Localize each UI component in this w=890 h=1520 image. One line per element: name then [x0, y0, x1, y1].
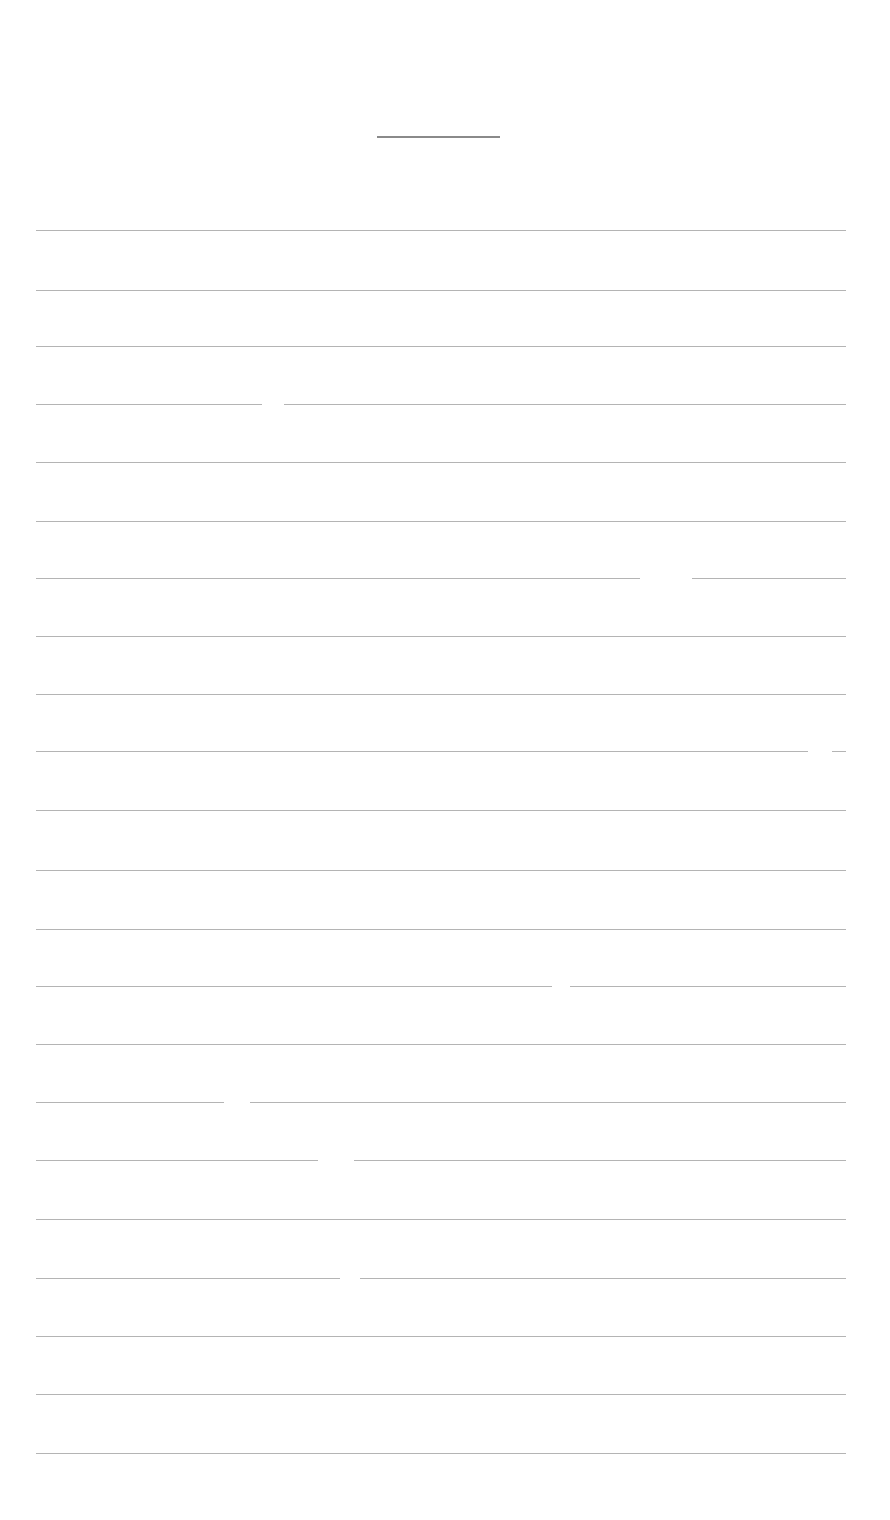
- ruled-line: [36, 986, 846, 987]
- ruled-line: [36, 929, 846, 930]
- line-gap: [640, 577, 692, 580]
- ruled-line: [36, 1044, 846, 1045]
- line-gap: [808, 750, 832, 753]
- ruled-line: [36, 404, 846, 405]
- ruled-line: [36, 1394, 846, 1395]
- ruled-line: [36, 636, 846, 637]
- ruled-line: [36, 578, 846, 579]
- ruled-line: [36, 694, 846, 695]
- line-gap: [318, 1159, 354, 1162]
- title-line: [377, 136, 500, 138]
- ruled-line: [36, 230, 846, 231]
- ruled-line: [36, 1278, 846, 1279]
- line-gap: [262, 403, 284, 406]
- ruled-line: [36, 346, 846, 347]
- ruled-line: [36, 1102, 846, 1103]
- ruled-line: [36, 1219, 846, 1220]
- ruled-line: [36, 1453, 846, 1454]
- line-gap: [552, 985, 570, 988]
- line-gap: [340, 1277, 360, 1280]
- ruled-line: [36, 751, 846, 752]
- ruled-line: [36, 810, 846, 811]
- ruled-line: [36, 1160, 846, 1161]
- ruled-line: [36, 521, 846, 522]
- ruled-line: [36, 462, 846, 463]
- ruled-line: [36, 1336, 846, 1337]
- line-gap: [224, 1101, 250, 1104]
- ruled-line: [36, 870, 846, 871]
- ruled-line: [36, 290, 846, 291]
